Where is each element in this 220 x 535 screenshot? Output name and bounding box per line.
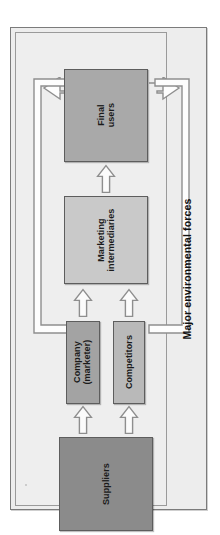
diagram-inner-frame: Finalusers Marketingintermediaries Compa… — [15, 32, 167, 506]
diagram-outer-frame: Finalusers Marketingintermediaries Compa… — [10, 27, 207, 510]
diagram-canvas: Finalusers Marketingintermediaries Compa… — [0, 0, 220, 535]
flow-arrow-intermediaries-to-final-users-icon — [96, 164, 116, 194]
node-competitors[interactable]: Competitors — [113, 321, 145, 404]
scan-artifact — [25, 484, 27, 486]
flow-arrow-company-to-intermediaries-icon — [73, 288, 93, 318]
major-environmental-forces-label: Major environmental forces — [181, 198, 193, 339]
node-suppliers-label: Suppliers — [101, 463, 111, 505]
flow-arrow-suppliers-to-competitors-icon — [119, 405, 139, 435]
node-marketing-intermediaries-label: Marketingintermediaries — [96, 209, 116, 272]
flow-arrow-competitors-to-intermediaries-icon — [119, 288, 139, 318]
node-suppliers[interactable]: Suppliers — [59, 437, 153, 531]
flow-arrow-suppliers-to-company-icon — [73, 405, 93, 435]
node-competitors-label: Competitors — [124, 335, 134, 389]
node-company-marketer[interactable]: Company(marketer) — [66, 321, 100, 404]
node-final-users[interactable]: Finalusers — [64, 69, 148, 162]
node-final-users-label: Finalusers — [96, 103, 116, 128]
node-company-marketer-label: Company(marketer) — [73, 340, 93, 385]
node-marketing-intermediaries[interactable]: Marketingintermediaries — [64, 196, 148, 284]
major-environmental-forces-caption: Major environmental forces — [169, 32, 204, 506]
